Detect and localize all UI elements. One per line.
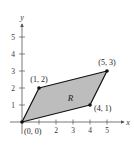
x-tick-label: 2 [54,126,58,135]
y-tick-label: 2 [11,84,15,93]
vertex-point [105,69,109,73]
x-axis-label: x [125,118,130,127]
x-tick-label: 3 [71,126,75,135]
vertex-point [20,120,24,124]
y-tick-label: 5 [11,33,15,42]
vertex-point [88,103,92,107]
vertex-point [37,86,41,90]
x-tick-label: 4 [88,126,92,135]
y-tick-label: 3 [11,67,15,76]
vertex-label: (0, 0) [24,127,42,136]
coordinate-plane: xy234512345 R(0, 0)(4, 1)(5, 3)(1, 2) [0,0,134,145]
region-label: R [67,93,74,103]
x-tick-label: 5 [105,126,109,135]
y-axis-label: y [19,13,24,22]
vertex-label: (4, 1) [94,104,112,113]
vertex-label: (5, 3) [98,58,116,67]
y-tick-label: 1 [11,101,15,110]
vertex-label: (1, 2) [30,75,48,84]
y-tick-label: 4 [11,50,15,59]
